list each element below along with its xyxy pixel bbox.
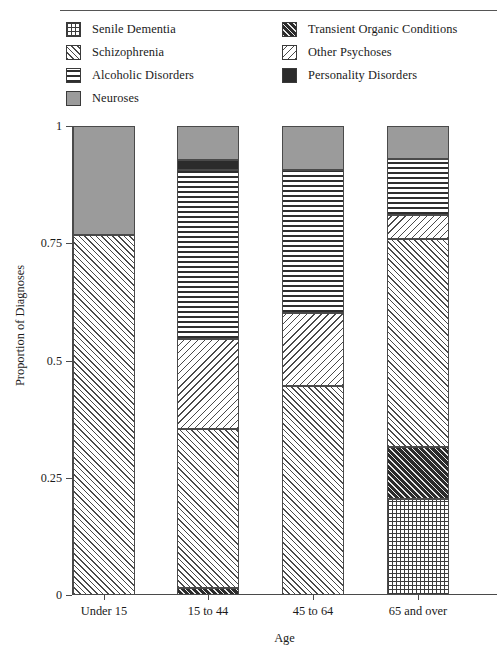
bar-segment-other-psychoses [387,215,449,238]
legend-item: Alcoholic Disorders [66,64,194,87]
stacked-bar-chart: Senile Dementia Schizophrenia Alcoholic … [0,0,504,645]
legend-column-right: Transient Organic Conditions Other Psych… [282,18,457,87]
y-tick-mark [66,243,72,244]
y-tick-label: 0.25 [0,472,62,484]
legend-swatch-neuroses-icon [66,91,81,106]
legend-item: Schizophrenia [66,41,194,64]
legend-item: Other Psychoses [282,41,457,64]
legend-item: Transient Organic Conditions [282,18,457,41]
y-tick-label: 0.75 [0,237,62,249]
bar-65-and-over [387,126,449,595]
bar-segment-neuroses [177,126,239,160]
bar-segment-schizophrenia [73,235,135,595]
y-axis-title: Proportion of Diagnoses [13,236,28,416]
legend-divider-rule [60,10,497,11]
legend-item: Senile Dementia [66,18,194,41]
bar-segment-schizophrenia [387,239,449,447]
x-tick-label: 45 to 64 [253,605,373,617]
bar-segment-transient-organic-conditions [177,588,239,595]
legend-column-left: Senile Dementia Schizophrenia Alcoholic … [66,18,194,110]
bar-segment-alcoholic-disorders [177,170,239,339]
legend-item: Neuroses [66,87,194,110]
legend-label: Schizophrenia [92,46,164,58]
legend-item: Personality Disorders [282,64,457,87]
x-tick-label: Under 15 [44,605,164,617]
bar-segment-neuroses [387,126,449,159]
legend-label: Senile Dementia [92,23,176,35]
legend-swatch-other-psychoses-icon [282,45,297,60]
y-tick-mark [66,126,72,127]
x-tick-label: 65 and over [358,605,478,617]
chart-legend: Senile Dementia Schizophrenia Alcoholic … [60,10,497,113]
y-tick-label: 0 [0,589,62,601]
x-tick-label: 15 to 44 [148,605,268,617]
legend-label: Personality Disorders [308,69,417,81]
bar-segment-other-psychoses [177,339,239,429]
legend-swatch-personality-disorders-icon [282,68,297,83]
bar-under-15 [73,126,135,595]
legend-swatch-schizophrenia-icon [66,45,81,60]
bar-segment-schizophrenia [282,386,344,595]
plot-area: 00.250.50.751 Under 1515 to 4445 to 6465… [0,113,504,645]
bar-45-to-64 [282,126,344,595]
legend-label: Alcoholic Disorders [92,69,194,81]
y-tick-mark [66,595,72,596]
x-axis-title: Age [72,631,497,645]
legend-swatch-alcoholic-disorders-icon [66,68,81,83]
legend-swatch-senile-dementia-icon [66,22,81,37]
y-tick-label: 0.5 [0,355,62,367]
legend-swatch-transient-organic-conditions-icon [282,22,297,37]
bar-segment-alcoholic-disorders [387,159,449,215]
bar-segment-senile-dementia [387,499,449,595]
bar-segment-schizophrenia [177,429,239,588]
y-tick-mark [66,361,72,362]
bar-segment-transient-organic-conditions [387,447,449,499]
legend-label: Neuroses [92,92,139,104]
legend-label: Other Psychoses [308,46,392,58]
y-tick-label: 1 [0,120,62,132]
bar-15-to-44 [177,126,239,595]
legend-label: Transient Organic Conditions [308,23,457,35]
bar-segment-neuroses [73,126,135,235]
bar-segment-neuroses [282,126,344,170]
bar-segment-alcoholic-disorders [282,170,344,313]
bar-segment-other-psychoses [282,313,344,386]
bar-segment-personality-disorders [177,160,239,170]
y-tick-mark [66,478,72,479]
